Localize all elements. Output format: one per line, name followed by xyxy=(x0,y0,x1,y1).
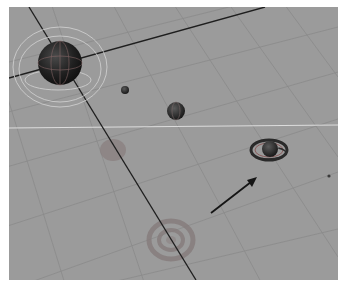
scene-canvas xyxy=(9,7,338,280)
large-sphere[interactable] xyxy=(38,41,82,85)
medium-sphere[interactable] xyxy=(167,102,185,120)
sphere-shadow xyxy=(100,139,126,161)
reference-line xyxy=(9,125,338,128)
ringed-planet[interactable] xyxy=(251,140,287,160)
3d-viewport[interactable] xyxy=(9,7,338,280)
small-dot[interactable] xyxy=(327,174,330,177)
tiny-sphere[interactable] xyxy=(121,86,129,94)
annotation-arrow xyxy=(211,177,257,213)
